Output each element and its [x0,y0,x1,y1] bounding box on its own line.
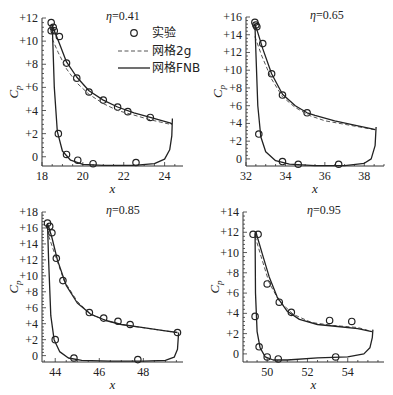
x-tick-label: 54 [342,365,354,379]
x-axis-label: x [311,181,318,196]
y-tick-label: 0 [233,347,239,361]
grid-fnb-line [255,24,376,166]
y-axis-label: Cp [6,85,23,99]
x-tick-label: 32 [240,169,252,183]
y-tick-label: +10 [220,246,239,260]
subplot-eta-0.65: 0+2+4+6+8+10+12+14+1632343638xCpη=0.65 [210,8,384,196]
y-tick-label: +4 [226,306,239,320]
y-tick-label: +16 [223,10,242,24]
x-axis-label: x [109,377,116,392]
y-tick-label: +12 [19,11,38,25]
x-tick-label: 20 [77,169,89,183]
y-tick-label: 0 [32,150,38,164]
subplot-title: η=0.41 [106,9,140,23]
y-axis-label: Cp [210,84,227,98]
y-tick-label: +14 [19,237,38,251]
y-tick-label: +8 [226,266,239,280]
legend-label-grid-2g: 网格2g [152,43,191,58]
y-tick-label: +18 [19,205,38,219]
y-tick-label: +6 [25,301,38,315]
legend-label-grid-fnb: 网格FNB [152,60,200,75]
y-tick-label: +6 [229,99,242,113]
x-axis-label: x [109,181,116,196]
x-tick-label: 48 [137,365,149,379]
y-tick-label: +4 [229,116,242,130]
y-tick-label: +6 [226,286,239,300]
x-tick-label: 24 [159,169,171,183]
x-tick-label: 34 [279,169,291,183]
y-tick-label: +14 [220,205,239,219]
y-tick-label: +2 [25,333,38,347]
y-tick-label: 0 [32,349,38,363]
y-axis-label: Cp [207,280,224,294]
x-tick-label: 22 [118,169,130,183]
experiment-marker [326,317,332,323]
x-tick-label: 44 [49,365,61,379]
experiment-marker [264,281,270,287]
y-tick-label: 0 [236,152,242,166]
grid-2g-line [49,236,177,333]
x-tick-label: 50 [261,365,273,379]
y-axis-label: Cp [6,280,23,294]
y-tick-label: +2 [25,127,38,141]
x-axis-label: x [310,377,317,392]
y-tick-label: +2 [229,134,242,148]
y-tick-label: +8 [25,285,38,299]
y-tick-label: +14 [223,28,242,42]
y-tick-label: +8 [25,57,38,71]
figure: 0+2+4+6+8+10+1218202224xCpη=0.41 0+2+4+6… [0,0,393,395]
subplot-eta-0.95: 0+2+4+6+8+10+12+14505254xCpη=0.95 [207,203,384,392]
y-tick-label: +12 [220,225,239,239]
legend-marker-circle-icon [131,30,138,37]
y-tick-label: +4 [25,104,38,118]
x-tick-label: 36 [319,169,331,183]
y-tick-label: +12 [19,253,38,267]
x-tick-label: 18 [36,169,48,183]
y-tick-label: +16 [19,221,38,235]
x-tick-label: 46 [93,365,105,379]
y-tick-label: +10 [19,34,38,48]
y-tick-label: +10 [223,63,242,77]
y-tick-label: +8 [229,81,242,95]
experiment-marker [252,313,258,319]
legend: 实验 网格2g 网格FNB [118,25,200,75]
subplot-title: η=0.85 [106,203,140,217]
y-tick-label: +12 [223,45,242,59]
legend-label-experiment: 实验 [152,25,176,40]
y-tick-label: +4 [25,317,38,331]
y-tick-label: +6 [25,80,38,94]
x-tick-label: 38 [358,169,370,183]
subplot-title: η=0.95 [307,203,341,217]
experiment-marker [349,318,355,324]
experiment-marker [275,356,281,362]
grid-fnb-line [255,232,373,360]
subplot-title: η=0.65 [310,8,344,22]
subplot-eta-0.85: 0+2+4+6+8+10+12+14+16+18444648xCpη=0.85 [6,203,183,392]
y-tick-label: +2 [226,327,239,341]
grid-fnb-line [48,224,179,361]
